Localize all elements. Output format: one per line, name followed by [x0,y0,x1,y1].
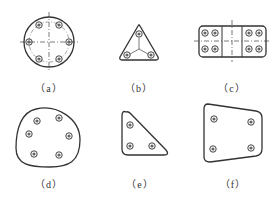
bolt-group-diagram [0,0,274,197]
figure-c-rectangular-plate [194,20,270,62]
figure-e-right-triangle-plate [122,112,168,156]
figure-d-irregular-plate [16,108,80,167]
caption-e: （e） [120,176,160,191]
figure-f-trapezoidal-plate [204,104,262,162]
figure-a-circular-flange [20,12,78,72]
caption-c: （c） [212,80,252,95]
figure-b-triangular-plate [120,25,159,60]
caption-f: （f） [213,176,253,191]
caption-b: （b） [119,80,159,95]
caption-d: （d） [29,176,69,191]
caption-a: （a） [29,80,69,95]
